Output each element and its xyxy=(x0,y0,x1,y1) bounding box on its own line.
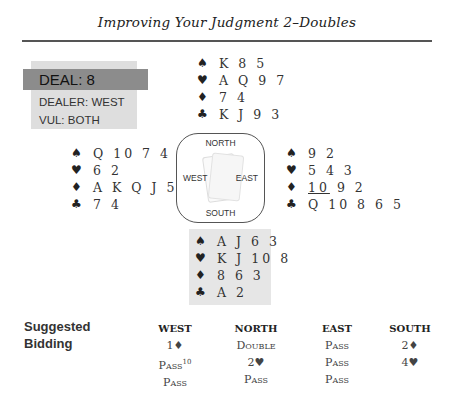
north-clubs: K J 9 3 xyxy=(219,106,282,123)
east-hand: ♠9 2 ♥5 4 3 ♦10 9 2 ♣Q 10 8 6 5 xyxy=(286,145,404,213)
compass-west: WEST xyxy=(183,173,208,183)
header-rule xyxy=(22,40,432,42)
heart-icon: ♥ xyxy=(195,250,217,267)
spade-icon: ♠ xyxy=(286,145,308,162)
bidding-column-south: SOUTH 2♦ 4♥ xyxy=(375,320,445,371)
bid: 2♦ xyxy=(375,337,445,354)
spade-icon: ♠ xyxy=(197,55,219,72)
diamond-icon: ♦ xyxy=(71,179,93,196)
bid: Pass xyxy=(302,371,372,388)
spade-icon: ♠ xyxy=(195,233,217,250)
bidding-header-north: NORTH xyxy=(221,320,291,337)
diamond-icon: ♦ xyxy=(195,267,217,284)
bid: Double xyxy=(221,337,291,354)
spade-icon: ♠ xyxy=(71,145,93,162)
heart-icon: ♥ xyxy=(286,162,308,179)
north-hearts: A Q 9 7 xyxy=(219,72,287,89)
vulnerability-info: VUL: BOTH xyxy=(39,114,100,126)
deal-number: DEAL: 8 xyxy=(39,71,95,88)
west-diamonds: A K Q J 5 xyxy=(93,179,177,196)
bidding-column-west: WEST 1♦ Pass10 Pass xyxy=(140,320,210,391)
bid: Pass10 xyxy=(140,354,210,374)
diamond-icon: ♦ xyxy=(286,179,308,196)
heart-icon: ♥ xyxy=(71,162,93,179)
bid: Pass xyxy=(140,374,210,391)
club-icon: ♣ xyxy=(71,196,93,213)
club-icon: ♣ xyxy=(195,284,217,301)
bidding-header-west: WEST xyxy=(140,320,210,337)
club-icon: ♣ xyxy=(286,196,308,213)
page-title: Improving Your Judgment 2–Doubles xyxy=(0,14,454,30)
bid: 1♦ xyxy=(140,337,210,354)
suggested-bidding-label: Suggested Bidding xyxy=(24,318,90,352)
bid: Pass xyxy=(302,337,372,354)
east-hearts: 5 4 3 xyxy=(308,162,355,179)
bid: Pass xyxy=(221,371,291,388)
compass-table: NORTH WEST EAST SOUTH xyxy=(176,133,265,223)
south-spades: A J 6 3 xyxy=(217,233,280,250)
diamond-icon: ♦ xyxy=(197,89,219,106)
compass-east: EAST xyxy=(236,173,258,183)
west-hearts: 6 2 xyxy=(93,162,122,179)
bid: Pass xyxy=(302,354,372,371)
east-spades: 9 2 xyxy=(308,145,337,162)
north-diamonds: 7 4 xyxy=(219,89,248,106)
north-spades: K 8 5 xyxy=(219,55,267,72)
bidding-column-east: EAST Pass Pass Pass xyxy=(302,320,372,388)
bidding-header-east: EAST xyxy=(302,320,372,337)
north-hand: ♠K 8 5 ♥A Q 9 7 ♦7 4 ♣K J 9 3 xyxy=(197,55,287,123)
south-hand: ♠A J 6 3 ♥K J 10 8 ♦8 6 3 ♣A 2 xyxy=(195,233,291,301)
south-clubs: A 2 xyxy=(217,284,247,301)
footnote-marker: 10 xyxy=(183,358,192,366)
compass-south: SOUTH xyxy=(177,208,264,218)
bidding-column-north: NORTH Double 2♥ Pass xyxy=(221,320,291,388)
east-diamonds: 10 9 2 xyxy=(308,179,366,196)
west-hand: ♠Q 10 7 4 ♥6 2 ♦A K Q J 5 ♣7 4 xyxy=(71,145,177,213)
dealer-info: DEALER: WEST xyxy=(39,96,125,108)
bid: 2♥ xyxy=(221,354,291,371)
east-clubs: Q 10 8 6 5 xyxy=(308,196,404,213)
west-clubs: 7 4 xyxy=(93,196,122,213)
bidding-header-south: SOUTH xyxy=(375,320,445,337)
bid: 4♥ xyxy=(375,354,445,371)
club-icon: ♣ xyxy=(197,106,219,123)
south-hearts: K J 10 8 xyxy=(217,250,291,267)
south-diamonds: 8 6 3 xyxy=(217,267,264,284)
compass-north: NORTH xyxy=(177,138,264,148)
west-spades: Q 10 7 4 xyxy=(93,145,171,162)
heart-icon: ♥ xyxy=(197,72,219,89)
